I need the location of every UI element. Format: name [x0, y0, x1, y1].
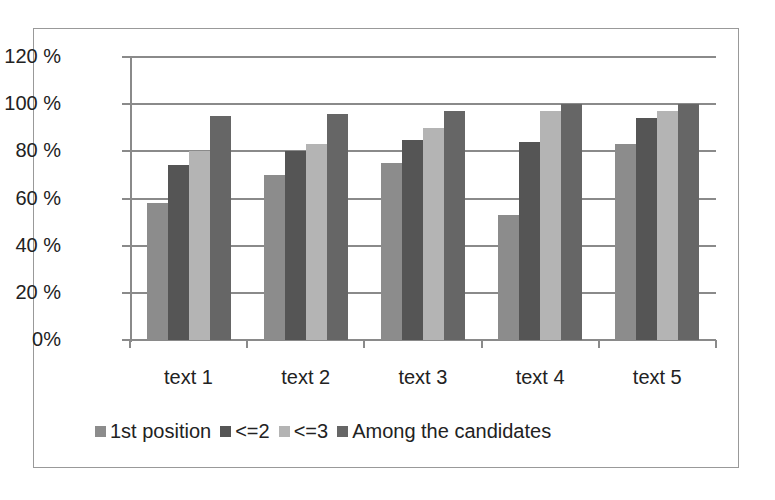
legend-swatch-icon — [220, 426, 231, 437]
bar — [657, 111, 678, 340]
bar — [561, 104, 582, 340]
y-tick-label: 60 % — [15, 188, 61, 208]
legend-swatch-icon — [279, 426, 290, 437]
x-tick-label: text 1 — [130, 366, 247, 389]
bar — [264, 175, 285, 340]
bar — [519, 142, 540, 340]
legend-swatch-icon — [95, 426, 106, 437]
bar — [285, 151, 306, 340]
chart-legend: 1st position<=2<=3Among the candidates — [95, 420, 560, 443]
y-tick — [122, 198, 130, 200]
bar — [306, 144, 327, 340]
y-axis — [130, 57, 132, 342]
y-tick-label: 80 % — [15, 140, 61, 160]
bar — [168, 165, 189, 340]
legend-label: <=2 — [235, 420, 269, 443]
bar — [381, 163, 402, 340]
x-tick — [715, 340, 717, 348]
bar — [189, 151, 210, 340]
x-tick-label: text 4 — [482, 366, 599, 389]
bar — [498, 215, 519, 340]
x-tick — [598, 340, 600, 348]
y-tick — [122, 103, 130, 105]
gridline — [130, 56, 716, 58]
x-tick — [246, 340, 248, 348]
bar — [444, 111, 465, 340]
x-tick-label: text 3 — [364, 366, 481, 389]
plot-area: 0%20 %40 %60 %80 %100 %120 % — [130, 57, 716, 340]
legend-label: <=3 — [294, 420, 328, 443]
x-tick — [363, 340, 365, 348]
y-tick — [122, 150, 130, 152]
bar — [210, 116, 231, 340]
bar — [402, 140, 423, 340]
bar — [327, 114, 348, 340]
y-tick-label: 40 % — [15, 235, 61, 255]
y-tick-label: 20 % — [15, 282, 61, 302]
x-tick-label: text 5 — [599, 366, 716, 389]
x-tick-label: text 2 — [247, 366, 364, 389]
legend-item: Among the candidates — [337, 420, 551, 443]
x-tick — [129, 340, 131, 348]
bar — [678, 104, 699, 340]
bar — [636, 118, 657, 340]
y-tick — [122, 292, 130, 294]
bar — [540, 111, 561, 340]
legend-item: <=2 — [220, 420, 269, 443]
bar — [615, 144, 636, 340]
bar — [423, 128, 444, 340]
bar — [147, 203, 168, 340]
y-tick — [122, 56, 130, 58]
gridline — [130, 103, 716, 105]
y-tick-label: 100 % — [4, 93, 61, 113]
x-tick — [481, 340, 483, 348]
y-tick-label: 120 % — [4, 46, 61, 66]
legend-swatch-icon — [337, 426, 348, 437]
y-tick — [122, 245, 130, 247]
legend-label: Among the candidates — [352, 420, 551, 443]
legend-item: 1st position — [95, 420, 211, 443]
y-tick-label: 0% — [32, 329, 61, 349]
legend-label: 1st position — [110, 420, 211, 443]
legend-item: <=3 — [279, 420, 328, 443]
